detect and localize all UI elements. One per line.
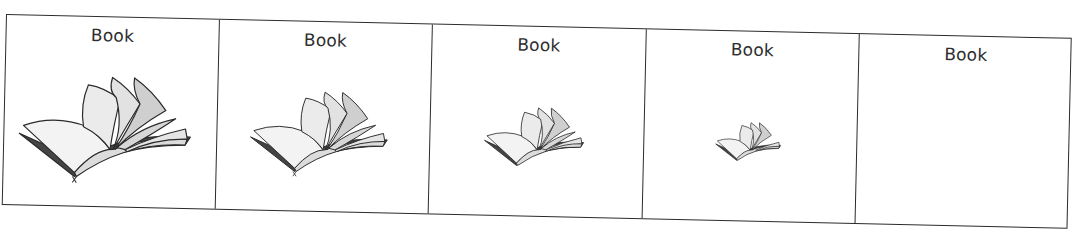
open-book-icon [481, 99, 593, 173]
panel-5-empty: Book [856, 34, 1073, 228]
panel-label: Book [646, 37, 858, 62]
panel-label: Book [6, 23, 218, 48]
panel-2: Book [216, 20, 433, 214]
open-book-icon [246, 80, 400, 183]
worksheet-strip: Book Book [2, 14, 1072, 229]
panel-3: Book [429, 25, 647, 219]
panel-label: Book [219, 28, 431, 53]
panel-1: Book [3, 15, 220, 209]
open-book-icon [14, 63, 207, 191]
panel-label: Book [432, 33, 645, 58]
open-book-icon [714, 117, 787, 166]
panel-4: Book [643, 29, 860, 223]
panel-label: Book [859, 42, 1072, 67]
